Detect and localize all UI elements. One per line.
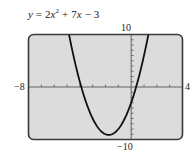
xmin-label: −8 xyxy=(14,81,25,92)
xmax-label: 4 xyxy=(185,81,190,92)
ymin-label: −10 xyxy=(117,141,133,152)
ymax-label: 10 xyxy=(121,22,131,33)
graphing-calculator-screen xyxy=(0,0,195,161)
